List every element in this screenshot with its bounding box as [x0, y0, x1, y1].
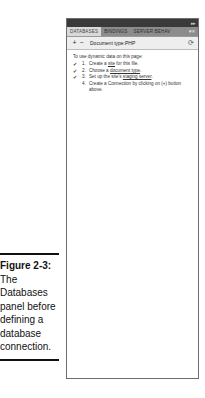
tab-bindings[interactable]: BINDINGS: [101, 27, 130, 36]
check-placeholder: [73, 81, 82, 94]
step-text: for this file.: [115, 61, 139, 66]
document-type-link[interactable]: document type: [110, 68, 140, 73]
tab-server-behaviors[interactable]: SERVER BEHAV: [131, 27, 174, 36]
caption-bottom-rule: [0, 359, 59, 361]
figure-label: Figure 2-3:: [0, 259, 60, 273]
step-number: 4.: [82, 81, 89, 94]
remove-connection-button[interactable]: −: [78, 38, 85, 48]
step-text: Create a Connection by clicking on (+) b…: [89, 81, 192, 94]
step-text: Set up the site's: [89, 74, 123, 79]
figure-description: The Databases panel before defining a da…: [0, 273, 60, 354]
refresh-icon[interactable]: ⟳: [188, 38, 194, 48]
step-text: .: [151, 74, 152, 79]
collapse-icon[interactable]: ▸▸: [191, 20, 195, 26]
step-text: .: [140, 68, 141, 73]
panel-tabs: DATABASES BINDINGS SERVER BEHAV ▼≡: [67, 27, 198, 37]
site-link[interactable]: site: [108, 61, 115, 66]
staging-server-link[interactable]: staging server: [123, 74, 152, 79]
step-text: Create a: [89, 61, 108, 66]
instructions-intro: To use dynamic data on this page:: [73, 54, 192, 60]
panel-menu-icon[interactable]: ▼≡: [188, 27, 195, 36]
add-connection-button[interactable]: +: [71, 38, 78, 48]
panel-toolbar: + − Document type:PHP ⟳: [67, 37, 198, 50]
panel-content: To use dynamic data on this page: ✔ 1. C…: [67, 50, 198, 97]
tab-databases[interactable]: DATABASES: [67, 27, 101, 36]
panel-title-bar[interactable]: ▸▸: [67, 19, 198, 27]
step-item: 4. Create a Connection by clicking on (+…: [73, 81, 192, 94]
step-text: Choose a: [89, 68, 110, 73]
document-type-label: Document type:PHP: [90, 40, 135, 46]
databases-panel: ▸▸ DATABASES BINDINGS SERVER BEHAV ▼≡ + …: [66, 18, 199, 379]
caption-top-rule: [0, 253, 59, 255]
figure-caption: Figure 2-3: The Databases panel before d…: [0, 253, 60, 361]
